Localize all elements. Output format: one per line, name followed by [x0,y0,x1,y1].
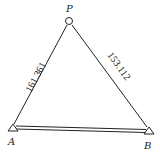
edge-ab-double-line [16,126,146,133]
point-a-label: A [7,136,15,147]
point-p-label: P [65,3,73,14]
survey-triangle-diagram: P A B 161.361 153.112 [0,0,160,158]
point-a-triangle-icon [8,124,18,131]
edge-pb-distance-label: 153.112 [105,50,133,82]
point-p-circle-icon [66,18,73,25]
edge-pb [72,25,147,127]
point-b-triangle-icon [144,127,154,134]
point-b-label: B [143,140,151,151]
edge-pa-distance-label: 161.361 [23,60,48,94]
